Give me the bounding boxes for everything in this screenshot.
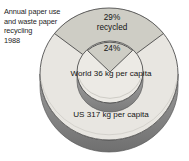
paper-recycling-infographic: Annual paper use and waste paper recycli…: [0, 0, 189, 161]
us-value-label: US 317 kg per capita: [52, 110, 170, 119]
world-value-label: World 36 kg per capita: [56, 69, 166, 78]
us-recycled-percent: 29%: [104, 13, 120, 22]
caption-line-3: recycling: [4, 26, 76, 36]
caption-line-2: and waste paper: [4, 17, 76, 27]
caption-line-4: 1988: [4, 36, 76, 46]
world-recycled-percent: 24%: [90, 44, 134, 53]
us-recycled-label: 29% recycled: [84, 13, 140, 34]
us-recycled-word: recycled: [84, 23, 140, 33]
caption-line-1: Annual paper use: [4, 7, 76, 17]
chart-caption: Annual paper use and waste paper recycli…: [4, 7, 76, 45]
